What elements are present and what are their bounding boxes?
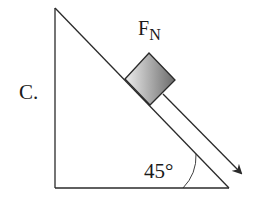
arrow-shaft [163,94,241,173]
force-label-main: F [138,17,149,39]
incline-diagram: C. FN 45° [0,0,256,202]
angle-arc [183,154,196,188]
force-label: FN [138,17,161,43]
block [125,53,175,105]
angle-label: 45° [144,159,173,183]
option-label: C. [19,80,38,104]
force-label-subscript: N [149,26,161,43]
force-arrow [163,94,241,173]
